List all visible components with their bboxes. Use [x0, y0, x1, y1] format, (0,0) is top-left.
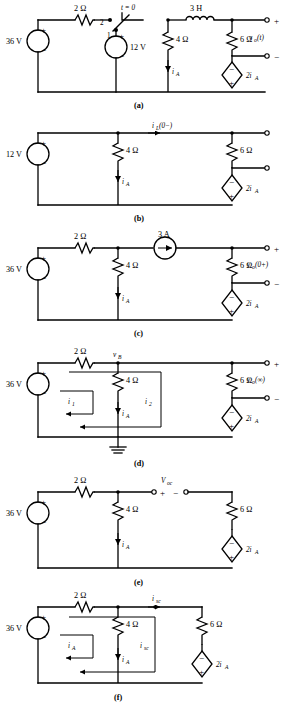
mesh-isc-sub-f: sc [144, 645, 149, 651]
ground-icon [110, 437, 126, 453]
mesh-loop-isc-f [69, 617, 155, 672]
figure-caption-d: (d) [134, 459, 144, 468]
output-terminal-minus-a[interactable] [265, 54, 269, 58]
dependent-source-label-b: 2i [246, 185, 252, 193]
output-voltage-arg-d: (∞) [255, 376, 266, 384]
source-36v-plus-d: + [41, 368, 46, 378]
figure-caption-b: (b) [134, 214, 144, 223]
dependent-source-minus-b: − [229, 177, 234, 187]
current-ia-sub-a: A [175, 71, 180, 77]
mesh-loop-i1-d [60, 391, 93, 414]
resistor-6ohm-label-b: 6 Ω [240, 146, 252, 155]
resistor-4ohm-label-f: 4 Ω [126, 620, 138, 629]
dependent-source-minus-e: − [229, 538, 234, 548]
dependent-source-sub-c: A [254, 303, 259, 309]
switch-pos2-label-a: 2 [100, 19, 104, 27]
resistor-6ohm-e [227, 502, 237, 530]
output-plus-sign-c: + [274, 244, 279, 254]
dependent-source-minus-d: − [229, 407, 234, 417]
resistor-2ohm-a [75, 15, 95, 25]
source-12v-minus-b: − [41, 158, 46, 168]
output-voltage-arg-a: (t) [257, 34, 264, 42]
source-36v-minus-c: − [41, 273, 46, 283]
figure-c: 36 V + − 2 Ω 4 Ω i A 3 A 6 Ω − + 2i A + … [6, 230, 279, 338]
dependent-source-label-e: 2i [246, 546, 252, 554]
resistor-4ohm-label-a: 4 Ω [176, 35, 188, 44]
mesh-i1-label-d: i [68, 398, 70, 406]
resistor-6ohm-d [227, 373, 237, 398]
output-terminal-plus-c[interactable] [265, 246, 269, 250]
resistor-6ohm-a [227, 32, 237, 56]
source-12v-plus-a: + [119, 31, 124, 41]
current-ia-label-f: i [122, 656, 124, 664]
source-36v-minus-e: − [41, 517, 46, 527]
resistor-2ohm-label-f: 2 Ω [74, 591, 86, 600]
output-terminal-plus-d[interactable] [265, 361, 269, 365]
mesh-ia-label-f: i [68, 642, 70, 650]
resistor-6ohm-label-e: 6 Ω [240, 505, 252, 514]
switch-blade-a[interactable] [113, 15, 129, 31]
output-plus-sign-d: + [274, 359, 279, 369]
source-36v-label-d: 36 V [6, 380, 22, 389]
figure-e: 36 V + − 2 Ω 4 Ω i A + − V oc 6 Ω − + 2i… [6, 476, 259, 587]
dependent-source-label-d: 2i [246, 415, 252, 423]
source-36v-label-e: 36 V [6, 509, 22, 518]
node-vb-label-d: v [113, 351, 117, 359]
source-12v-label-a: 12 V [130, 43, 146, 52]
output-minus-sign-c: − [274, 279, 279, 289]
source-36v-label-a: 36 V [6, 37, 22, 46]
voc-plus-sign-e: + [160, 488, 165, 498]
figure-f: 36 V + − 2 Ω i sc 4 Ω i A i A i sc 6 Ω −… [6, 591, 229, 702]
dependent-source-plus-c: + [229, 306, 234, 316]
isc-top-sub-f: sc [156, 598, 161, 604]
output-terminal-bottom-b[interactable] [265, 166, 269, 170]
dependent-source-label-c: 2i [246, 300, 252, 308]
output-terminal-minus-c[interactable] [265, 281, 269, 285]
voc-sub-e: oc [167, 480, 173, 486]
current-ia-sub-c: A [125, 298, 130, 304]
current-ia-label-e: i [122, 541, 124, 549]
output-minus-sign-d: − [274, 394, 279, 404]
current-ia-sub-d: A [125, 413, 130, 419]
dependent-source-sub-e: A [254, 549, 259, 555]
inductor-3h-label-a: 3 H [190, 4, 202, 13]
dependent-source-plus-a: + [229, 78, 234, 88]
resistor-2ohm-label-d: 2 Ω [74, 347, 86, 356]
resistor-2ohm-label-a: 2 Ω [74, 4, 86, 13]
node-vb-sub-d: B [118, 354, 122, 360]
current-ia-label-b: i [122, 178, 124, 186]
resistor-2ohm-c [75, 243, 95, 253]
source-36v-label-c: 36 V [6, 265, 22, 274]
figure-caption-f: (f) [114, 693, 122, 702]
resistor-4ohm-label-b: 4 Ω [126, 146, 138, 155]
resistor-6ohm-c [227, 258, 237, 283]
source-36v-label-f: 36 V [6, 624, 22, 633]
source-36v-plus-a: + [41, 25, 46, 35]
figure-a: 36 V + − 2 Ω t = 0 2 1 12 V + − 4 Ω i A … [6, 4, 279, 110]
figure-caption-a: (a) [134, 101, 144, 110]
output-terminal-minus-d[interactable] [265, 396, 269, 400]
switch-time-label-a: t = 0 [121, 4, 135, 12]
resistor-4ohm-label-c: 4 Ω [126, 261, 138, 270]
isc-top-label-f: i [152, 595, 154, 603]
current-ia-sub-b: A [125, 181, 130, 187]
resistor-2ohm-label-c: 2 Ω [74, 232, 86, 241]
resistor-2ohm-e [75, 487, 95, 497]
mesh-loop-ia-f [60, 635, 93, 658]
dependent-source-sub-f: A [224, 664, 229, 670]
inductor-current-label-b: i [152, 122, 154, 130]
current-source-3a-label-c: 3 A [158, 230, 170, 239]
output-voltage-label-a: v [249, 34, 253, 42]
source-36v-minus-f: − [41, 632, 46, 642]
output-minus-sign-a: − [274, 52, 279, 62]
resistor-6ohm-label-f: 6 Ω [210, 620, 222, 629]
source-36v-minus-a: − [41, 45, 46, 55]
dependent-source-label-a: 2i [246, 72, 252, 80]
figure-sheet: 36 V + − 2 Ω t = 0 2 1 12 V + − 4 Ω i A … [0, 0, 288, 713]
figure-b: 12 V + − 4 Ω i A i L (0−) 6 Ω − + 2i A (… [6, 122, 269, 223]
dependent-source-label-f: 2i [216, 661, 222, 669]
output-plus-sign-a: + [274, 16, 279, 26]
output-terminal-plus-a[interactable] [265, 18, 269, 22]
output-terminal-top-b[interactable] [265, 131, 269, 135]
voc-terminal-left-e[interactable] [152, 490, 156, 494]
